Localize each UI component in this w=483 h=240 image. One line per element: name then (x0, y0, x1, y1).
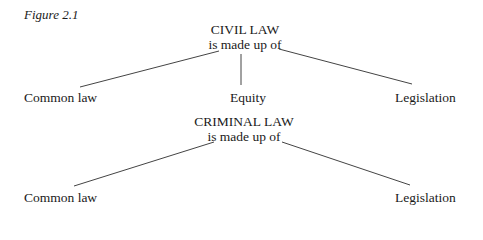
criminal-to-legislation-line (282, 142, 410, 185)
civil-law-root: CIVIL LAW (211, 23, 280, 37)
criminal-child-common-law: Common law (24, 191, 97, 205)
civil-child-equity: Equity (230, 91, 266, 105)
criminal-law-connector: is made up of (207, 130, 280, 144)
civil-child-common-law: Common law (24, 91, 97, 105)
civil-law-connector: is made up of (208, 38, 281, 52)
criminal-child-legislation: Legislation (395, 191, 456, 205)
criminal-to-common-law-line (74, 142, 214, 186)
civil-to-common-law-line (80, 51, 219, 87)
civil-to-legislation-line (279, 49, 412, 84)
criminal-law-root: CRIMINAL LAW (194, 115, 293, 129)
civil-child-legislation: Legislation (395, 91, 456, 105)
